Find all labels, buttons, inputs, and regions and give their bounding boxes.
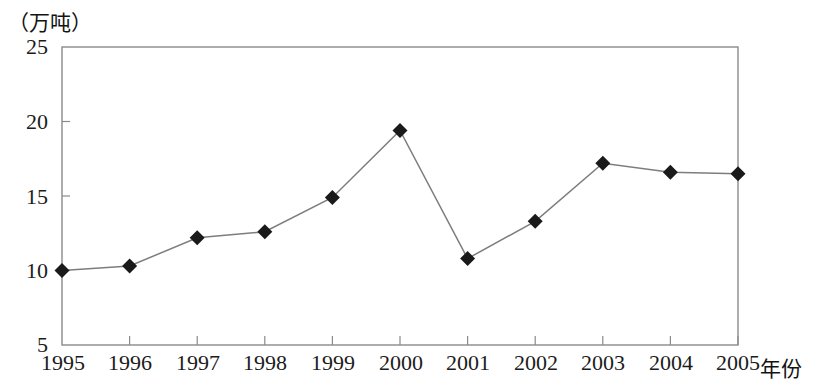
x-tick-label-1997: 1997: [160, 352, 236, 374]
x-tick-label-2000: 2000: [363, 352, 439, 374]
line-chart: （万吨） 25 20 15 10 5 1995 1996 1997 1998 1…: [0, 0, 819, 382]
x-tick-label-2001: 2001: [430, 352, 506, 374]
plot-frame: [62, 47, 738, 345]
x-tick-label-2002: 2002: [498, 352, 574, 374]
plot-area: [0, 0, 819, 382]
x-tick-label-1995: 1995: [25, 352, 101, 374]
x-tick-label-1996: 1996: [92, 352, 168, 374]
x-tick-label-1998: 1998: [227, 352, 303, 374]
x-tick-label-2003: 2003: [565, 352, 641, 374]
y-axis-unit-label: （万吨）: [8, 6, 92, 36]
x-tick-label-1999: 1999: [295, 352, 371, 374]
y-tick-label-25: 25: [0, 36, 48, 58]
x-tick-label-2004: 2004: [633, 352, 709, 374]
y-tick-label-20: 20: [0, 111, 48, 133]
y-tick-label-10: 10: [0, 260, 48, 282]
x-axis-label: 年份: [760, 352, 802, 382]
y-tick-label-15: 15: [0, 186, 48, 208]
